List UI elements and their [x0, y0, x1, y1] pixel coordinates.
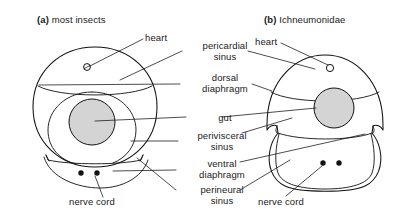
- label-pericardial-sinus: pericardialsinus: [186, 40, 264, 62]
- panel-a-ventral-diaphragm-hook-left: [46, 155, 49, 161]
- label-perineural-sinus-line2: sinus: [211, 195, 234, 206]
- panel-b-caption-text: Ichneumonidae: [279, 14, 345, 25]
- label-nerve-cord-left: nerve cord: [69, 196, 115, 207]
- label-dorsal-diaphragm-line2: diaphragm: [202, 83, 248, 94]
- leader-nerve-cord-left: [95, 176, 103, 197]
- label-perivisceral-sinus-line2: sinus: [211, 141, 234, 152]
- panel-a-nerve-cord-dot-left: [78, 170, 83, 175]
- panel-b-nerve-cord-dot-left: [320, 160, 325, 165]
- panel-a-ventral-diaphragm-hook-right: [140, 155, 143, 161]
- label-ventral-diaphragm-line2: diaphragm: [199, 169, 245, 180]
- panel-a-caption-text: most insects: [52, 14, 106, 25]
- panel-b-drawing: [267, 55, 383, 191]
- panel-b-ventral-diaphragm: [278, 133, 372, 139]
- panel-b-gut: [314, 88, 354, 128]
- panel-b-caption: (b) Ichneumonidae: [264, 14, 345, 26]
- leader-pericardial-left: [120, 51, 182, 80]
- label-ventral-diaphragm: ventraldiaphragm: [183, 158, 261, 180]
- label-dorsal-diaphragm: dorsaldiaphragm: [186, 72, 264, 94]
- leader-ventral-left: [113, 170, 176, 171]
- label-pericardial-sinus-line1: pericardial: [203, 40, 248, 51]
- panel-a-caption: (a) most insects: [37, 14, 106, 26]
- insect-sinus-diagram: (a) most insects (b) Ichneumonidae heart…: [0, 0, 410, 218]
- panel-a-nerve-cord-dot-right: [94, 170, 99, 175]
- label-perivisceral-sinus: perivisceralsinus: [183, 130, 261, 152]
- panel-b-caption-prefix: (b): [264, 14, 279, 25]
- label-perineural-sinus: perineuralsinus: [183, 184, 261, 206]
- label-heart-left: heart: [145, 32, 167, 43]
- panel-a-caption-prefix: (a): [37, 14, 52, 25]
- label-perineural-sinus-line1: perineural: [200, 184, 243, 195]
- leader-dorsal-left: [39, 84, 180, 85]
- label-pericardial-sinus-line2: sinus: [214, 51, 237, 62]
- panel-a-dorsal-diaphragm: [38, 86, 152, 95]
- label-nerve-cord-right: nerve cord: [258, 196, 304, 207]
- leader-heart-left: [90, 39, 143, 66]
- panel-b-heart: [326, 64, 333, 71]
- label-ventral-diaphragm-line1: ventral: [207, 158, 236, 169]
- panel-a-drawing: [33, 47, 157, 188]
- panel-b-nerve-cord-dot-right: [336, 160, 341, 165]
- label-perivisceral-sinus-line1: perivisceral: [197, 130, 246, 141]
- panel-a-gut: [69, 99, 115, 145]
- label-dorsal-diaphragm-line1: dorsal: [212, 72, 238, 83]
- label-gut: gut: [186, 112, 264, 123]
- leader-perineural-left: [137, 158, 176, 190]
